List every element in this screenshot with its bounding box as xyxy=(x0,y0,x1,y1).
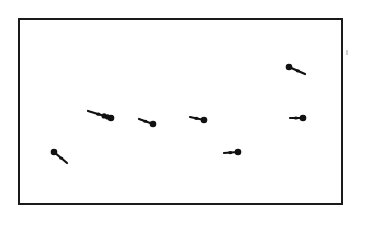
particle-dot xyxy=(286,64,293,71)
particle-canvas xyxy=(0,0,367,225)
particle-dot xyxy=(235,149,242,156)
particle-dot xyxy=(300,115,307,122)
particle-dot xyxy=(102,113,107,118)
particle-1 xyxy=(51,149,67,163)
particle-dot xyxy=(51,149,58,156)
particle-6 xyxy=(286,64,305,74)
particle-5 xyxy=(224,149,241,156)
particle-4 xyxy=(190,117,207,124)
particle-3 xyxy=(139,119,156,127)
particle-dot xyxy=(150,121,157,128)
particle-7 xyxy=(290,115,306,122)
particle-dot xyxy=(201,117,208,124)
particle-2 xyxy=(88,111,114,121)
